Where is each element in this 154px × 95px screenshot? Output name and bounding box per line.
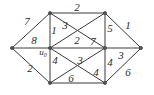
graph-node-bottom_right (103, 81, 106, 84)
graph-node-right (139, 46, 142, 49)
edge-label-topleft-midright: 3 (62, 20, 68, 31)
edge-label-left-center: 8 (31, 35, 37, 46)
graph-node-mid_right (103, 46, 106, 49)
u-zero-label: u0 (39, 48, 47, 59)
edge-label-topright-center: 2 (74, 35, 80, 46)
edge-label-bottom: 6 (68, 73, 74, 84)
edge-label-center-bottomleft: 4 (52, 55, 58, 66)
graph-figure: 27813275124334466u0 (0, 0, 154, 95)
edge-label-topright-right: 1 (125, 20, 131, 31)
graph-node-center (48, 46, 51, 49)
edge-label-midright-right: 3 (118, 50, 124, 61)
edge-label-midright-bottomleft: 4 (93, 67, 99, 78)
edge-label-midright-bottomright: 4 (107, 57, 113, 68)
edge-label-topleft-center: 1 (51, 25, 57, 36)
edge-label-center-midright: 7 (90, 36, 96, 47)
graph-node-left (10, 46, 13, 49)
edge-label-center-bottomright: 3 (77, 55, 83, 66)
node-label-subscript: 0 (44, 52, 47, 58)
graph-node-top_right (103, 11, 106, 14)
graph-node-top_left (48, 11, 51, 14)
edge-label-bottomright-right: 6 (125, 67, 131, 78)
edge-label-left-topleft: 7 (24, 16, 30, 27)
graph-canvas (0, 0, 154, 95)
edge-label-topright-midright: 5 (107, 23, 113, 34)
graph-node-bottom_left (48, 81, 51, 84)
edge-label-top: 2 (74, 2, 80, 13)
edge-label-left-bottomleft: 2 (27, 63, 33, 74)
